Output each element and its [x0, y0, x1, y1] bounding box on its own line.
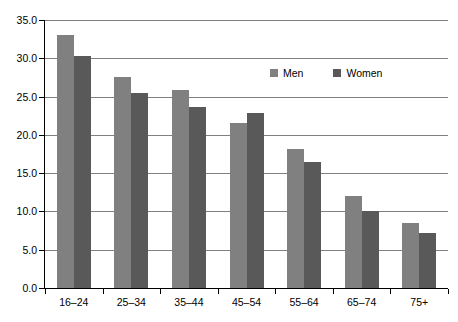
bar-women-1 [131, 93, 148, 288]
x-axis-tick [45, 289, 46, 294]
bar-women-6 [419, 233, 436, 288]
y-axis-tick-label: 15.0 [3, 168, 37, 179]
bar-men-4 [287, 149, 304, 288]
bar-women-0 [74, 56, 91, 288]
plot-area [45, 20, 448, 288]
legend-swatch-icon [270, 69, 278, 77]
gridline [45, 20, 448, 21]
bar-men-0 [57, 35, 74, 288]
bar-women-3 [247, 113, 264, 288]
y-axis-tick-label: 20.0 [3, 130, 37, 141]
y-axis-tick-label: 10.0 [3, 206, 37, 217]
bar-men-2 [172, 90, 189, 288]
legend-entry-men: Men [270, 68, 303, 79]
y-axis-tick [39, 250, 45, 251]
y-axis-tick [39, 58, 45, 59]
y-axis-tick-labels: 0.05.010.015.020.025.030.035.0 [0, 0, 37, 322]
legend-entry-women: Women [333, 68, 382, 79]
x-axis-tick-label: 75+ [379, 297, 458, 308]
x-axis-tick [333, 289, 334, 294]
y-axis-tick [39, 97, 45, 98]
bar-women-2 [189, 107, 206, 288]
bar-men-6 [402, 223, 419, 288]
y-axis-tick [39, 20, 45, 21]
gridline [45, 97, 448, 98]
x-axis-tick [390, 289, 391, 294]
y-axis-tick [39, 135, 45, 136]
y-axis-tick-label: 0.0 [3, 283, 37, 294]
gridline [45, 58, 448, 59]
legend-label: Women [346, 68, 382, 79]
x-axis-tick [275, 289, 276, 294]
bar-women-5 [362, 211, 379, 288]
x-axis-tick [448, 289, 449, 294]
x-axis-tick [218, 289, 219, 294]
x-axis-tick [103, 289, 104, 294]
x-axis-line [44, 288, 448, 289]
bar-women-4 [304, 162, 321, 288]
bar-men-5 [345, 196, 362, 288]
bar-men-1 [114, 77, 131, 288]
y-axis-tick-label: 5.0 [3, 245, 37, 256]
bar-chart: 0.05.010.015.020.025.030.035.0 MenWomen … [0, 0, 458, 322]
bar-men-3 [230, 123, 247, 288]
y-axis-tick-label: 30.0 [3, 53, 37, 64]
x-axis-tick [160, 289, 161, 294]
y-axis-tick-label: 25.0 [3, 92, 37, 103]
legend-label: Men [283, 68, 303, 79]
y-axis-tick [39, 173, 45, 174]
legend-swatch-icon [333, 69, 341, 77]
y-axis-tick-label: 35.0 [3, 15, 37, 26]
chart-legend: MenWomen [270, 68, 382, 79]
y-axis-tick [39, 211, 45, 212]
